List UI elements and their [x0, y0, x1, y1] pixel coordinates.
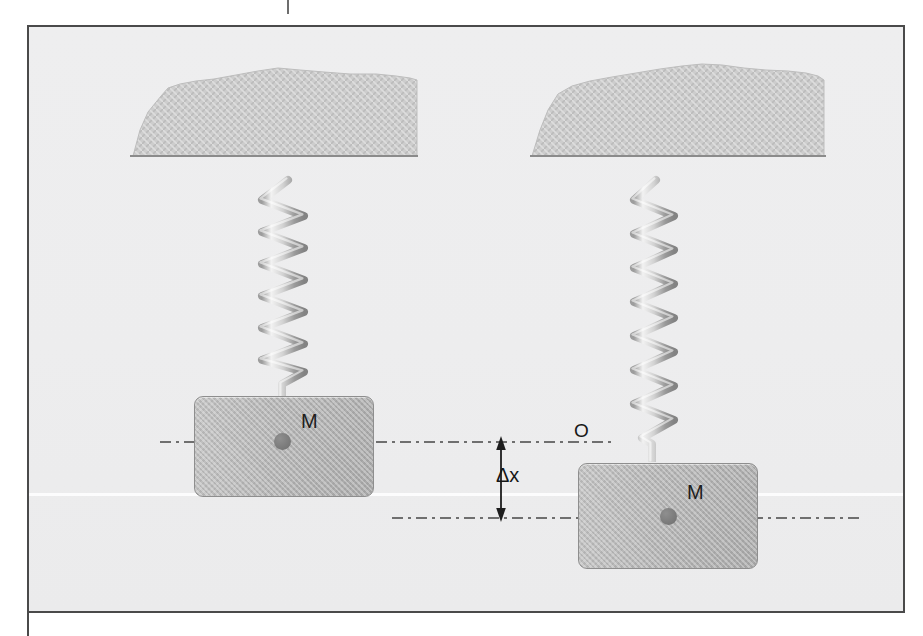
origin-label: O: [574, 420, 589, 442]
figure-canvas: M M O Δx: [0, 0, 923, 636]
displacement-label: Δx: [496, 464, 519, 487]
left-spring: [252, 154, 316, 400]
top-tick-mark: [287, 0, 289, 14]
left-center-of-mass-dot: [274, 433, 291, 450]
scan-band: [29, 493, 903, 496]
right-center-of-mass-dot: [660, 508, 677, 525]
frame-left-extension: [27, 613, 29, 636]
right-spring: [622, 152, 686, 462]
left-ceiling: [128, 60, 418, 166]
right-ceiling: [516, 58, 826, 166]
right-mass-label: M: [687, 481, 704, 504]
left-mass-label: M: [301, 410, 318, 433]
